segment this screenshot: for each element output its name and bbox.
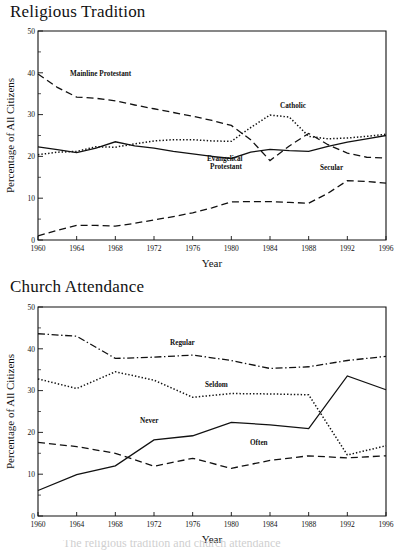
series-label-mainline-protestant: Mainline Protestant bbox=[70, 70, 132, 78]
x-tick-label: 1992 bbox=[340, 520, 355, 529]
y-tick-label: 30 bbox=[28, 386, 36, 395]
x-tick-label: 1984 bbox=[263, 244, 278, 253]
y-axis-title: Percentage of All Citizens bbox=[4, 354, 16, 469]
chart-religious-tradition: Religious Tradition 01020304050196019641… bbox=[0, 0, 400, 275]
figure-caption-text: The religious tradition and church atten… bbox=[63, 540, 281, 551]
x-tick-label: 1980 bbox=[224, 244, 239, 253]
series-label-catholic: Catholic bbox=[280, 102, 307, 110]
series-line-secular bbox=[38, 181, 386, 236]
y-tick-label: 50 bbox=[28, 303, 36, 312]
x-tick-label: 1964 bbox=[69, 520, 84, 529]
x-tick-label: 1976 bbox=[185, 520, 200, 529]
y-tick-label: 20 bbox=[28, 152, 36, 161]
x-tick-label: 1960 bbox=[31, 244, 46, 253]
x-tick-label: 1968 bbox=[108, 520, 123, 529]
y-tick-label: 50 bbox=[28, 27, 36, 36]
series-line-regular bbox=[38, 334, 386, 369]
series-label-regular: Regular bbox=[170, 339, 196, 347]
x-tick-label: 1996 bbox=[379, 520, 394, 529]
x-tick-label: 1980 bbox=[224, 520, 239, 529]
x-tick-label: 1988 bbox=[301, 244, 316, 253]
series-label-seldom: Seldom bbox=[205, 381, 228, 389]
series-label-often: Often bbox=[250, 439, 268, 447]
x-tick-label: 1968 bbox=[108, 244, 123, 253]
x-tick-label: 1992 bbox=[340, 244, 355, 253]
series-line-mainline-protestant bbox=[38, 74, 386, 161]
y-tick-label: 10 bbox=[28, 470, 36, 479]
plot-frame bbox=[38, 31, 386, 240]
y-tick-label: 20 bbox=[28, 428, 36, 437]
series-line-never bbox=[38, 376, 386, 491]
chart-plot-church-attendance: 0102030405019601964196819721976198019841… bbox=[0, 275, 400, 551]
plot-frame bbox=[38, 307, 386, 516]
x-tick-label: 1984 bbox=[263, 520, 278, 529]
series-label-never: Never bbox=[140, 417, 159, 425]
series-line-often bbox=[38, 442, 386, 468]
series-label-evangelical: Evangelical bbox=[207, 155, 243, 163]
y-axis-title: Percentage of All Citizens bbox=[4, 78, 16, 193]
x-tick-label: 1960 bbox=[31, 520, 46, 529]
y-tick-label: 10 bbox=[28, 194, 36, 203]
x-tick-label: 1964 bbox=[69, 244, 84, 253]
x-tick-label: 1988 bbox=[301, 520, 316, 529]
figure-caption: The religious tradition and church atten… bbox=[0, 540, 400, 551]
y-tick-label: 30 bbox=[28, 110, 36, 119]
x-tick-label: 1972 bbox=[147, 244, 162, 253]
x-tick-label: 1976 bbox=[185, 244, 200, 253]
y-tick-label: 40 bbox=[28, 345, 36, 354]
chart-plot-religious-tradition: 0102030405019601964196819721976198019841… bbox=[0, 0, 400, 275]
chart-church-attendance: Church Attendance 0102030405019601964196… bbox=[0, 275, 400, 551]
x-tick-label: 1972 bbox=[147, 520, 162, 529]
x-tick-label: 1996 bbox=[379, 244, 394, 253]
series-label-secular: Secular bbox=[320, 164, 344, 172]
series-label-protestant: Protestant bbox=[210, 163, 242, 171]
x-axis-title: Year bbox=[202, 257, 223, 269]
y-tick-label: 40 bbox=[28, 69, 36, 78]
